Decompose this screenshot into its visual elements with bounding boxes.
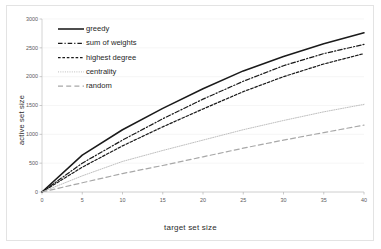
- legend-item-centrality: centrality: [86, 67, 116, 76]
- y-tick-label: 2500: [16, 45, 38, 51]
- y-tick-label: 3000: [16, 16, 38, 22]
- x-tick-label: 0: [32, 197, 52, 203]
- x-tick-label: 5: [72, 197, 92, 203]
- x-tick-label: 35: [314, 197, 334, 203]
- x-tick-label: 30: [274, 197, 294, 203]
- x-tick-label: 10: [113, 197, 133, 203]
- y-axis-title: active set size: [17, 95, 26, 145]
- x-tick-label: 15: [153, 197, 173, 203]
- legend-item-sum-of-weights: sum of weights: [86, 38, 137, 47]
- x-axis-title: target set size: [0, 223, 381, 232]
- line-chart-plot: [0, 0, 381, 249]
- legend-item-highest-degree: highest degree: [86, 53, 136, 62]
- chart-figure: 050010001500200025003000 051015202530354…: [0, 0, 381, 249]
- series-line-centrality: [42, 104, 364, 192]
- legend-sample-lines: [58, 29, 84, 86]
- y-tick-label: 0: [16, 189, 38, 195]
- x-tick-label: 40: [354, 197, 374, 203]
- legend-item-random: random: [86, 81, 112, 90]
- legend-item-greedy: greedy: [86, 24, 109, 33]
- y-tick-label: 500: [16, 160, 38, 166]
- x-tick-label: 25: [233, 197, 253, 203]
- x-tick-label: 20: [193, 197, 213, 203]
- y-tick-label: 2000: [16, 73, 38, 79]
